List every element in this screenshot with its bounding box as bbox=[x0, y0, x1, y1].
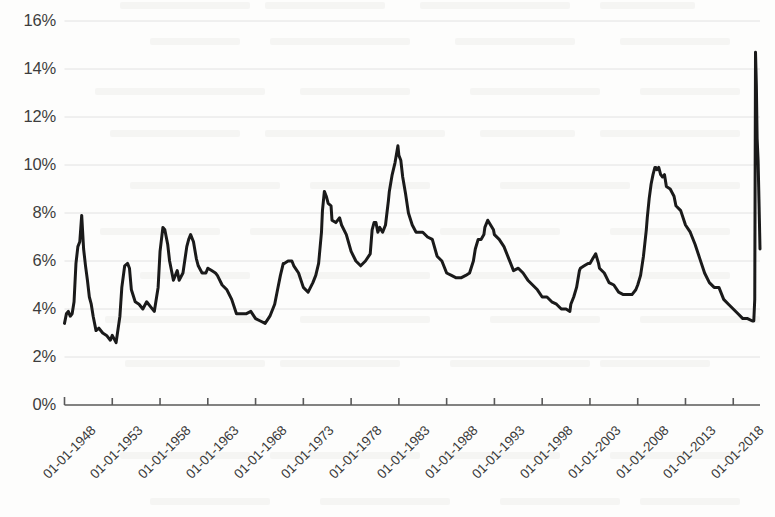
chart-page: 0%2%4%6%8%10%12%14%16% 01-01-194801-01-1… bbox=[0, 0, 775, 517]
x-axis-labels: 01-01-194801-01-195301-01-195801-01-1963… bbox=[0, 0, 775, 517]
